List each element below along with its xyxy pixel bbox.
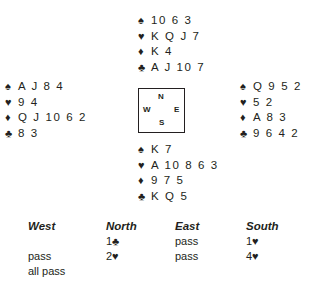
- auction-col-south: South 1♥ 4♥: [246, 219, 279, 264]
- spade-icon: ♠: [5, 79, 18, 95]
- east-diamonds: ♦A 8 3: [240, 110, 302, 126]
- club-icon: ♣: [138, 189, 151, 205]
- heart-icon: ♥: [240, 95, 253, 111]
- north-hearts: ♥K Q J 7: [138, 29, 205, 45]
- auction-bid: 1♣: [106, 234, 137, 249]
- auction-col-east: East pass pass: [175, 219, 199, 264]
- east-hearts: ♥5 2: [240, 95, 302, 111]
- heart-icon: ♥: [138, 158, 151, 174]
- west-hand: ♠A J 8 4 ♥9 4 ♦Q J 10 6 2 ♣8 3: [5, 79, 87, 141]
- auction-bid: pass: [28, 249, 65, 264]
- auction-header-north: North: [106, 219, 137, 234]
- diamond-icon: ♦: [240, 110, 253, 126]
- heart-icon: ♥: [138, 29, 151, 45]
- auction-header-south: South: [246, 219, 279, 234]
- auction-col-north: North 1♣ 2♥: [106, 219, 137, 264]
- south-diamonds: ♦9 7 5: [138, 173, 219, 189]
- north-hand: ♠10 6 3 ♥K Q J 7 ♦K 4 ♣A J 10 7: [138, 13, 205, 75]
- heart-icon: ♥: [5, 95, 18, 111]
- club-icon: ♣: [240, 126, 253, 142]
- compass-north: N: [158, 92, 164, 101]
- spade-icon: ♠: [138, 13, 151, 29]
- compass-box: N W E S: [138, 88, 185, 133]
- auction-bid: pass: [175, 249, 199, 264]
- club-icon: ♣: [5, 126, 18, 142]
- north-spades: ♠10 6 3: [138, 13, 205, 29]
- east-hand: ♠Q 9 5 2 ♥5 2 ♦A 8 3 ♣9 6 4 2: [240, 79, 302, 141]
- diamond-icon: ♦: [5, 110, 18, 126]
- auction-bid: 1♥: [246, 234, 279, 249]
- west-spades: ♠A J 8 4: [5, 79, 87, 95]
- auction-bid: all pass: [28, 264, 65, 279]
- auction-bid: pass: [175, 234, 199, 249]
- west-diamonds: ♦Q J 10 6 2: [5, 110, 87, 126]
- compass-west: W: [143, 105, 151, 114]
- auction-col-west: West pass all pass: [28, 219, 65, 279]
- diamond-icon: ♦: [138, 44, 151, 60]
- auction-header-west: West: [28, 219, 65, 234]
- auction-bid: 4♥: [246, 249, 279, 264]
- compass-east: E: [174, 105, 179, 114]
- auction-bid: 2♥: [106, 249, 137, 264]
- club-icon: ♣: [138, 60, 151, 76]
- north-diamonds: ♦K 4: [138, 44, 205, 60]
- diamond-icon: ♦: [138, 173, 151, 189]
- north-clubs: ♣A J 10 7: [138, 60, 205, 76]
- auction-bid: [28, 234, 65, 249]
- east-clubs: ♣9 6 4 2: [240, 126, 302, 142]
- east-spades: ♠Q 9 5 2: [240, 79, 302, 95]
- south-hearts: ♥A 10 8 6 3: [138, 158, 219, 174]
- west-hearts: ♥9 4: [5, 95, 87, 111]
- south-clubs: ♣K Q 5: [138, 189, 219, 205]
- compass-south: S: [159, 118, 164, 127]
- auction-header-east: East: [175, 219, 199, 234]
- south-hand: ♠K 7 ♥A 10 8 6 3 ♦9 7 5 ♣K Q 5: [138, 142, 219, 204]
- spade-icon: ♠: [138, 142, 151, 158]
- spade-icon: ♠: [240, 79, 253, 95]
- west-clubs: ♣8 3: [5, 126, 87, 142]
- south-spades: ♠K 7: [138, 142, 219, 158]
